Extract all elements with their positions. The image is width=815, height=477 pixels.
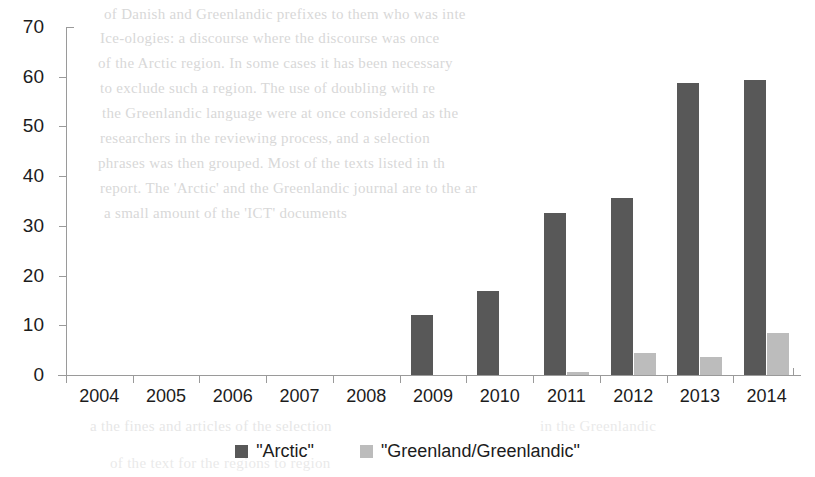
y-axis-tick-mark (59, 276, 66, 277)
x-axis-tick-mark (199, 375, 200, 383)
x-axis-tick-mark (400, 375, 401, 383)
bar-2012-series-0 (611, 198, 633, 375)
y-axis-tick-label: 30 (0, 215, 44, 237)
x-axis-tick-mark (466, 375, 467, 383)
bar-2011-series-0 (544, 213, 566, 375)
x-axis-tick-label: 2012 (600, 386, 667, 407)
y-axis-tick-mark (59, 176, 66, 177)
y-axis-tick-label: 70 (0, 16, 44, 38)
x-axis-tick-label: 2006 (199, 386, 266, 407)
x-axis-tick-mark (533, 375, 534, 383)
x-axis-tick-label: 2009 (400, 386, 467, 407)
bar-2012-series-1 (634, 353, 656, 375)
y-axis-tick-mark (59, 126, 66, 127)
bar-2013-series-1 (700, 357, 722, 375)
y-axis-tick-label: 60 (0, 66, 44, 88)
y-axis-tick-label: 10 (0, 314, 44, 336)
y-axis-tick-label: 50 (0, 115, 44, 137)
y-axis-tick-mark (59, 226, 66, 227)
x-axis-tick-mark (333, 375, 334, 383)
legend-label-greenland: "Greenland/Greenlandic" (381, 441, 580, 462)
x-axis-tick-label: 2007 (266, 386, 333, 407)
y-axis-tick-label: 0 (0, 364, 44, 386)
x-axis-tick-mark (133, 375, 134, 383)
bar-2014-series-0 (744, 80, 766, 375)
x-axis-tick-label: 2010 (466, 386, 533, 407)
x-axis-tick-mark (733, 375, 734, 383)
x-axis-right-cap (793, 368, 794, 376)
x-axis-tick-mark (66, 375, 67, 383)
legend-item-greenland[interactable]: "Greenland/Greenlandic" (360, 441, 580, 462)
bar-2013-series-0 (677, 83, 699, 375)
y-axis-tick-mark (59, 77, 66, 78)
x-axis-tick-mark (667, 375, 668, 383)
x-axis-tick-mark (600, 375, 601, 383)
plot-area (66, 27, 800, 375)
y-axis-tick-mark (59, 325, 66, 326)
legend-item-arctic[interactable]: "Arctic" (235, 441, 314, 462)
x-axis-tick-label: 2008 (333, 386, 400, 407)
x-axis-tick-label: 2011 (533, 386, 600, 407)
y-axis-line (66, 27, 67, 376)
legend-swatch-greenland-icon (360, 445, 373, 458)
x-axis-line (58, 375, 801, 376)
bar-chart-figure: 010203040506070 200420052006200720082009… (0, 0, 815, 477)
legend-label-arctic: "Arctic" (256, 441, 314, 462)
y-axis-tick-label: 20 (0, 265, 44, 287)
x-axis-tick-label: 2013 (667, 386, 734, 407)
x-axis-tick-label: 2014 (733, 386, 800, 407)
x-axis-tick-mark (266, 375, 267, 383)
chart-legend: "Arctic" "Greenland/Greenlandic" (0, 441, 815, 462)
bar-2010-series-0 (477, 291, 499, 375)
y-axis-top-cap (66, 27, 74, 28)
legend-swatch-arctic-icon (235, 445, 248, 458)
x-axis-tick-label: 2005 (133, 386, 200, 407)
y-axis-tick-label: 40 (0, 165, 44, 187)
bar-2009-series-0 (411, 315, 433, 375)
x-axis-tick-label: 2004 (66, 386, 133, 407)
bar-2014-series-1 (767, 333, 789, 375)
